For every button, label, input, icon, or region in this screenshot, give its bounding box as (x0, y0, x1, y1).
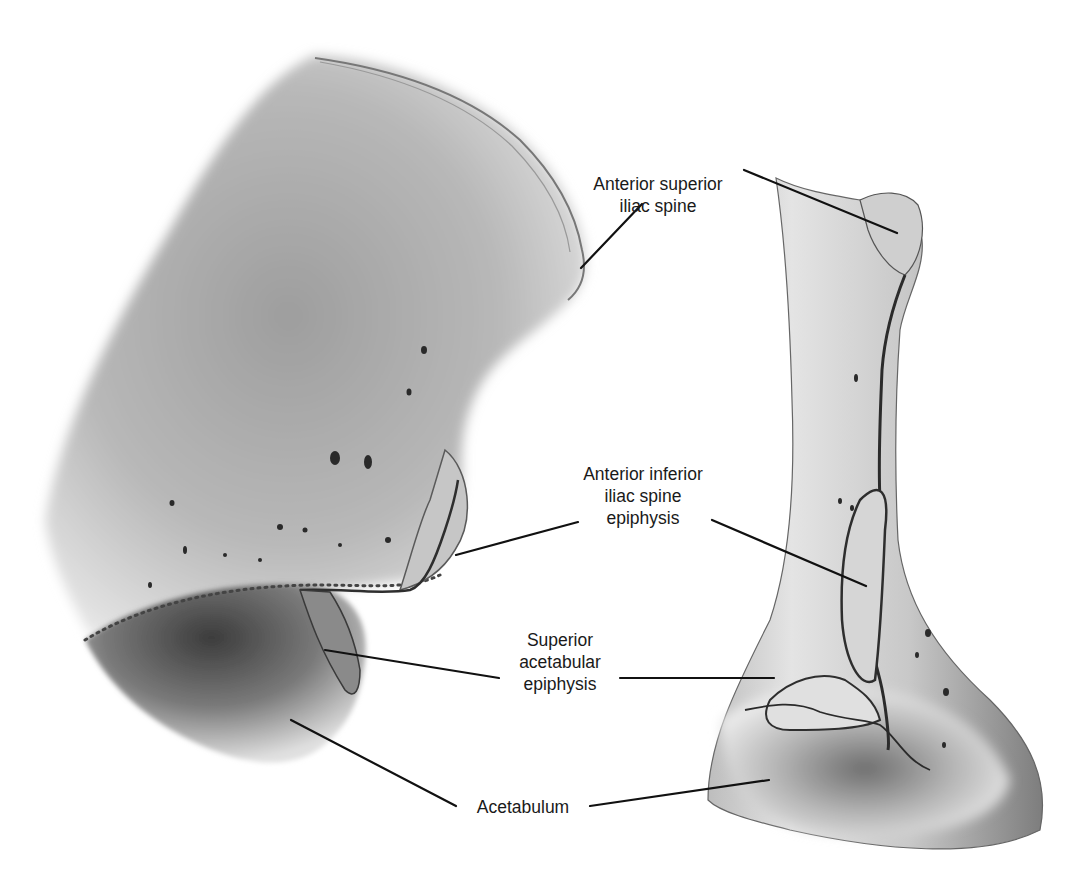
label-superior-acetabular-epiphysis: Superior acetabular epiphysis (500, 629, 620, 695)
label-line: iliac spine (573, 195, 743, 217)
left-ilium-body (45, 55, 586, 635)
label-anterior-superior-iliac-spine: Anterior superior iliac spine (573, 173, 743, 217)
label-line: epiphysis (500, 673, 620, 695)
label-line: Anterior inferior (563, 463, 723, 485)
label-line: Acetabulum (458, 796, 588, 818)
anatomy-figure (0, 0, 1081, 876)
leader-aiis-left (456, 522, 578, 555)
right-ilium-illustration (708, 178, 1043, 849)
label-line: iliac spine (563, 485, 723, 507)
label-line: epiphysis (563, 507, 723, 529)
label-line: Anterior superior (573, 173, 743, 195)
label-line: Superior (500, 629, 620, 651)
label-acetabulum: Acetabulum (458, 796, 588, 818)
label-line: acetabular (500, 651, 620, 673)
label-anterior-inferior-iliac-spine-epiphysis: Anterior inferior iliac spine epiphysis (563, 463, 723, 529)
leader-acetabulum-left (291, 720, 456, 806)
